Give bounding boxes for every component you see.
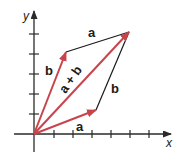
label-a-top: a [88, 25, 96, 40]
label-a-bottom: a [76, 119, 84, 134]
label-b-right: b [111, 81, 119, 96]
vector-a [34, 110, 96, 134]
vector-diagram: x y a a b b a + b [0, 0, 186, 157]
y-axis-label: y [22, 9, 30, 23]
label-b-left: b [45, 63, 53, 78]
x-axis-label: x [165, 136, 173, 150]
edge-b-right [96, 32, 129, 110]
